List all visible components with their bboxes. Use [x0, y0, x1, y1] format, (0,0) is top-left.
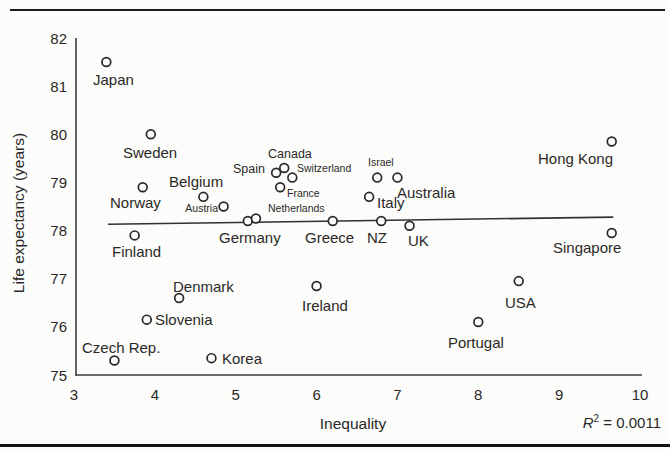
label-hong-kong: Hong Kong	[538, 150, 613, 167]
x-tick-4: 4	[151, 386, 159, 403]
label-austria: Austria	[185, 202, 218, 214]
point-netherlands	[252, 214, 261, 223]
point-sweden	[146, 130, 155, 139]
label-canada: Canada	[268, 147, 312, 161]
label-ireland: Ireland	[302, 297, 348, 314]
figure-page: 7576777879808182345678910JapanSwedenNorw…	[0, 0, 670, 450]
point-israel	[373, 173, 382, 182]
label-france: France	[287, 187, 320, 199]
label-czech-rep: Czech Rep.	[82, 339, 160, 356]
point-finland	[130, 231, 139, 240]
label-japan: Japan	[93, 71, 134, 88]
label-norway: Norway	[110, 194, 161, 211]
label-portugal: Portugal	[448, 334, 504, 351]
scatter-chart-life-expectancy-vs-inequality: 7576777879808182345678910JapanSwedenNorw…	[0, 0, 670, 450]
label-denmark: Denmark	[173, 278, 234, 295]
label-slovenia: Slovenia	[155, 311, 213, 328]
r-squared-annotation: R2 = 0.0011	[583, 413, 661, 431]
x-tick-3: 3	[70, 386, 78, 403]
label-greece: Greece	[305, 229, 354, 246]
point-hong-kong	[607, 137, 616, 146]
trend-line	[108, 217, 613, 224]
x-tick-10: 10	[632, 386, 649, 403]
label-germany: Germany	[219, 229, 281, 246]
x-axis-title: Inequality	[320, 415, 387, 432]
label-usa: USA	[505, 294, 536, 311]
point-canada	[280, 164, 289, 173]
point-norway	[138, 183, 147, 192]
y-tick-80: 80	[50, 126, 67, 143]
point-portugal	[474, 318, 483, 327]
point-ireland	[312, 282, 321, 291]
y-tick-82: 82	[50, 30, 67, 47]
point-italy	[365, 192, 374, 201]
y-tick-77: 77	[50, 270, 67, 287]
point-austria	[219, 202, 228, 211]
label-netherlands: Netherlands	[268, 202, 325, 214]
label-belgium: Belgium	[169, 173, 223, 190]
x-tick-9: 9	[555, 386, 563, 403]
label-korea: Korea	[222, 350, 263, 367]
y-tick-78: 78	[50, 222, 67, 239]
label-switzerland: Switzerland	[297, 162, 351, 174]
point-slovenia	[142, 315, 151, 324]
point-switzerland	[288, 173, 297, 182]
y-axis-title: Life expectancy (years)	[10, 133, 27, 293]
y-tick-76: 76	[50, 318, 67, 335]
bottom-rule	[0, 444, 670, 447]
point-singapore	[607, 229, 616, 238]
point-nz	[377, 217, 386, 226]
point-korea	[207, 354, 216, 363]
point-usa	[514, 277, 523, 286]
y-tick-79: 79	[50, 174, 67, 191]
label-uk: UK	[408, 232, 429, 249]
point-greece	[328, 217, 337, 226]
label-finland: Finland	[112, 243, 161, 260]
point-france	[276, 183, 285, 192]
point-czech-rep	[110, 356, 119, 365]
label-nz: NZ	[367, 229, 387, 246]
x-tick-8: 8	[474, 386, 482, 403]
point-uk	[405, 221, 414, 230]
x-tick-5: 5	[232, 386, 240, 403]
label-spain: Spain	[233, 162, 265, 176]
x-tick-7: 7	[393, 386, 401, 403]
y-tick-81: 81	[50, 78, 67, 95]
x-tick-6: 6	[312, 386, 320, 403]
point-japan	[102, 58, 111, 67]
label-australia: Australia	[397, 184, 456, 201]
point-spain	[272, 168, 281, 177]
point-australia	[393, 173, 402, 182]
label-singapore: Singapore	[553, 239, 621, 256]
label-sweden: Sweden	[123, 144, 177, 161]
label-israel: Israel	[368, 156, 394, 168]
point-belgium	[199, 192, 208, 201]
y-tick-75: 75	[50, 367, 67, 384]
